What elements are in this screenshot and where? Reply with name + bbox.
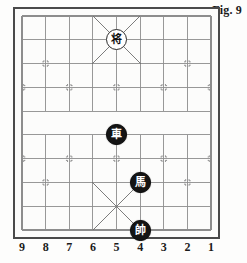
- piece-jiang-general-glyph: 将: [111, 34, 122, 45]
- file-label-2: 2: [184, 240, 190, 255]
- piece-ju-chariot-glyph: 車: [111, 129, 122, 140]
- file-label-4: 4: [137, 240, 143, 255]
- file-label-6: 6: [90, 240, 96, 255]
- piece-ma-horse[interactable]: 馬: [130, 172, 151, 193]
- figure-container: Fig. 9 将車馬帥 987654321: [0, 0, 247, 263]
- file-label-5: 5: [114, 240, 120, 255]
- piece-ma-horse-glyph: 馬: [135, 176, 146, 187]
- piece-shuai-marshal-glyph: 帥: [135, 224, 146, 235]
- file-label-9: 9: [19, 240, 25, 255]
- file-label-1: 1: [208, 240, 214, 255]
- xiangqi-board[interactable]: 将車馬帥: [13, 7, 220, 239]
- file-label-7: 7: [66, 240, 72, 255]
- file-label-8: 8: [43, 240, 49, 255]
- file-number-axis: 987654321: [13, 240, 220, 260]
- file-label-3: 3: [161, 240, 167, 255]
- piece-shuai-marshal[interactable]: 帥: [130, 220, 151, 241]
